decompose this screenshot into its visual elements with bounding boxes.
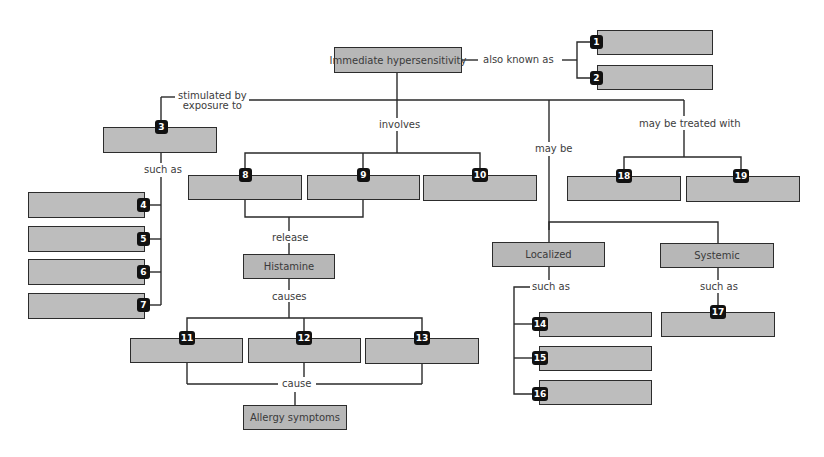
badge-2: 2 — [590, 71, 603, 85]
node-histamine: Histamine — [243, 254, 335, 279]
node-label: Histamine — [264, 261, 315, 272]
link-also-known-as: also known as — [481, 54, 556, 65]
badge-8: 8 — [239, 168, 252, 182]
blank-box-5[interactable] — [28, 226, 145, 252]
link-may-be-treated-with: may be treated with — [637, 118, 743, 129]
node-label: Systemic — [694, 250, 740, 261]
link-involves: involves — [377, 119, 422, 130]
badge-16: 16 — [532, 387, 548, 401]
node-label: Localized — [525, 249, 571, 260]
blank-box-14[interactable] — [539, 312, 652, 337]
node-label: Immediate hypersensitivity — [330, 55, 467, 66]
badge-9: 9 — [357, 168, 370, 182]
concept-map: Immediate hypersensitivity also known as… — [0, 0, 824, 457]
badge-14: 14 — [532, 317, 548, 331]
blank-box-2[interactable] — [597, 65, 713, 90]
badge-12: 12 — [296, 331, 312, 345]
link-cause: cause — [280, 378, 313, 389]
blank-box-6[interactable] — [28, 259, 145, 285]
badge-11: 11 — [179, 331, 195, 345]
badge-18: 18 — [616, 169, 632, 183]
badge-4: 4 — [137, 198, 150, 212]
link-such-as-localized: such as — [530, 281, 572, 292]
badge-13: 13 — [414, 331, 430, 345]
link-line-2: exposure to — [178, 101, 247, 111]
link-such-as-systemic: such as — [698, 281, 740, 292]
badge-3: 3 — [155, 120, 168, 134]
blank-box-7[interactable] — [28, 293, 145, 319]
blank-box-15[interactable] — [539, 346, 652, 371]
node-systemic: Systemic — [660, 243, 774, 268]
badge-6: 6 — [137, 265, 150, 279]
badge-19: 19 — [733, 169, 749, 183]
badge-1: 1 — [590, 35, 603, 49]
badge-10: 10 — [472, 168, 488, 182]
link-causes: causes — [270, 291, 309, 302]
node-localized: Localized — [492, 242, 605, 267]
node-label: Allergy symptoms — [250, 412, 340, 423]
link-may-be: may be — [533, 143, 574, 154]
blank-box-1[interactable] — [597, 30, 713, 55]
badge-5: 5 — [137, 232, 150, 246]
badge-7: 7 — [137, 298, 150, 312]
node-allergy-symptoms: Allergy symptoms — [243, 405, 347, 430]
badge-15: 15 — [532, 351, 548, 365]
link-release: release — [270, 232, 310, 243]
blank-box-16[interactable] — [539, 380, 652, 405]
link-stimulated-by-exposure-to: stimulated by exposure to — [176, 91, 249, 111]
node-immediate-hypersensitivity: Immediate hypersensitivity — [334, 47, 462, 73]
blank-box-4[interactable] — [28, 192, 145, 218]
link-such-as-allergens: such as — [142, 164, 184, 175]
badge-17: 17 — [710, 305, 726, 319]
